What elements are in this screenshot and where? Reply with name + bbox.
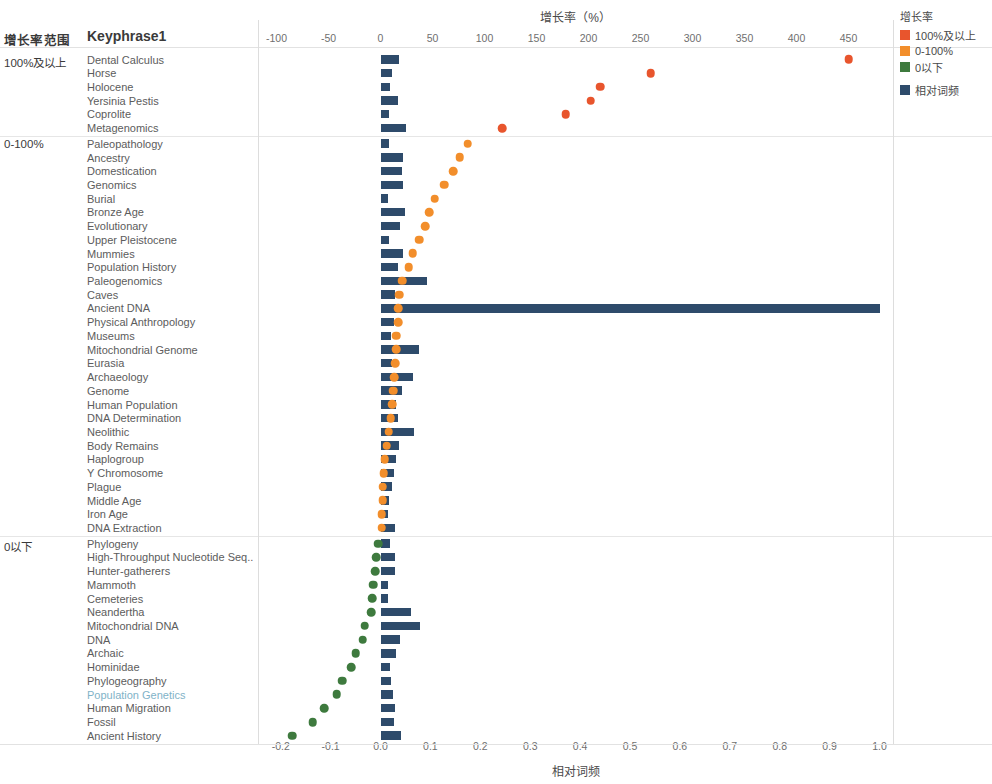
keyphrase-label[interactable]: Paleopathology [87,138,163,150]
growth-rate-dot[interactable] [440,181,449,190]
frequency-bar[interactable] [381,249,403,257]
frequency-bar[interactable] [381,139,390,147]
frequency-bar[interactable] [381,608,412,616]
frequency-bar[interactable] [381,594,389,602]
growth-rate-dot[interactable] [387,414,396,423]
frequency-bar[interactable] [381,304,880,312]
keyphrase-label[interactable]: Genome [87,385,129,397]
growth-rate-dot[interactable] [374,539,383,548]
keyphrase-label[interactable]: Human Migration [87,702,171,714]
growth-rate-dot[interactable] [421,222,430,231]
frequency-bar[interactable] [381,635,401,643]
keyphrase-label[interactable]: Ancient History [87,730,161,742]
growth-rate-dot[interactable] [369,580,378,589]
keyphrase-label[interactable]: Archaeology [87,371,148,383]
keyphrase-label[interactable]: Horse [87,67,116,79]
growth-rate-dot[interactable] [382,441,391,450]
frequency-bar[interactable] [381,236,389,244]
keyphrase-label[interactable]: Dental Calculus [87,54,164,66]
keyphrase-label[interactable]: Ancient DNA [87,302,150,314]
growth-rate-dot[interactable] [415,235,424,244]
keyphrase-label[interactable]: Holocene [87,81,133,93]
keyphrase-label[interactable]: Ancestry [87,152,130,164]
growth-rate-dot[interactable] [368,594,377,603]
frequency-bar[interactable] [381,731,402,739]
growth-rate-dot[interactable] [288,731,297,740]
keyphrase-label[interactable]: Cemeteries [87,593,143,605]
growth-rate-dot[interactable] [408,249,417,258]
growth-rate-dot[interactable] [586,96,595,105]
legend-item[interactable]: 0以下 [900,60,992,74]
growth-rate-dot[interactable] [647,69,656,78]
growth-rate-dot[interactable] [498,124,507,133]
frequency-bar[interactable] [381,318,394,326]
keyphrase-label[interactable]: DNA [87,634,110,646]
frequency-bar[interactable] [381,581,389,589]
legend-item[interactable]: 相对词频 [900,83,992,97]
frequency-bar[interactable] [381,553,395,561]
keyphrase-label[interactable]: Yersinia Pestis [87,95,159,107]
keyphrase-label[interactable]: Mitochondrial DNA [87,620,179,632]
frequency-bar[interactable] [381,690,394,698]
keyphrase-label[interactable]: Population Genetics [87,689,185,701]
keyphrase-label[interactable]: Mammoth [87,579,136,591]
frequency-bar[interactable] [381,332,392,340]
growth-rate-dot[interactable] [404,263,413,272]
keyphrase-label[interactable]: Middle Age [87,495,141,507]
keyphrase-label[interactable]: Bronze Age [87,206,144,218]
keyphrase-label[interactable]: Fossil [87,716,116,728]
growth-rate-dot[interactable] [430,194,439,203]
keyphrase-label[interactable]: Domestication [87,165,157,177]
keyphrase-label[interactable]: Y Chromosome [87,467,163,479]
frequency-bar[interactable] [381,222,401,230]
growth-rate-dot[interactable] [394,304,403,313]
keyphrase-label[interactable]: Genomics [87,179,137,191]
growth-rate-dot[interactable] [449,167,458,176]
growth-rate-dot[interactable] [844,55,853,64]
growth-rate-dot[interactable] [394,318,403,327]
growth-rate-dot[interactable] [359,635,368,644]
keyphrase-label[interactable]: Body Remains [87,440,159,452]
legend-item[interactable]: 0-100% [900,44,992,58]
frequency-bar[interactable] [381,181,404,189]
frequency-bar[interactable] [381,290,396,298]
growth-rate-dot[interactable] [309,718,318,727]
keyphrase-label[interactable]: Plague [87,481,121,493]
keyphrase-label[interactable]: Iron Age [87,508,128,520]
growth-rate-dot[interactable] [455,153,464,162]
keyphrase-label[interactable]: Population History [87,261,176,273]
growth-rate-dot[interactable] [391,359,400,368]
growth-rate-dot[interactable] [392,331,401,340]
growth-rate-dot[interactable] [378,482,387,491]
frequency-bar[interactable] [381,649,397,657]
growth-rate-dot[interactable] [378,496,387,505]
frequency-bar[interactable] [381,110,390,118]
growth-rate-dot[interactable] [388,400,397,409]
frequency-bar[interactable] [381,55,399,63]
keyphrase-label[interactable]: Burial [87,193,115,205]
growth-rate-dot[interactable] [361,622,370,631]
growth-rate-dot[interactable] [377,510,386,519]
growth-rate-dot[interactable] [596,83,605,92]
growth-rate-dot[interactable] [333,690,342,699]
keyphrase-label[interactable]: Museums [87,330,135,342]
growth-rate-dot[interactable] [389,386,398,395]
keyphrase-label[interactable]: Hominidae [87,661,140,673]
growth-rate-dot[interactable] [367,608,376,617]
keyphrase-label[interactable]: Caves [87,289,118,301]
growth-rate-dot[interactable] [347,663,356,672]
growth-rate-dot[interactable] [390,373,399,382]
legend-item[interactable]: 100%及以上 [900,28,992,42]
frequency-bar[interactable] [381,663,391,671]
keyphrase-label[interactable]: Physical Anthropology [87,316,195,328]
keyphrase-label[interactable]: Mitochondrial Genome [87,344,198,356]
keyphrase-label[interactable]: DNA Extraction [87,522,162,534]
frequency-bar[interactable] [381,69,392,77]
keyphrase-label[interactable]: DNA Determination [87,412,181,424]
growth-rate-dot[interactable] [380,455,389,464]
frequency-bar[interactable] [381,622,421,630]
keyphrase-label[interactable]: Phylogeny [87,538,138,550]
growth-rate-dot[interactable] [338,676,347,685]
growth-rate-dot[interactable] [371,567,380,576]
keyphrase-label[interactable]: Mummies [87,248,135,260]
